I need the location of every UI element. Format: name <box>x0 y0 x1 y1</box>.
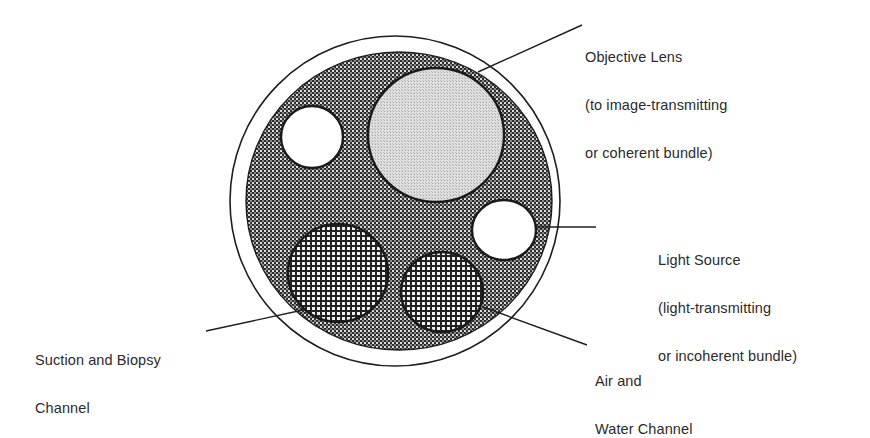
air-water-label: Air and Water Channel <box>595 341 692 438</box>
suction-biopsy-label: Suction and Biopsy Channel <box>35 320 161 432</box>
objective-lens-label-line2: (to image-transmitting <box>585 97 727 113</box>
auxiliary-port-circle <box>281 106 343 168</box>
suction-biopsy-channel-circle <box>288 224 388 322</box>
light-source-label-line1: Light Source <box>658 252 797 268</box>
air-water-label-line1: Air and <box>595 373 692 389</box>
suction-biopsy-label-line2: Channel <box>35 400 161 416</box>
air-water-channel-circle <box>401 252 483 332</box>
objective-lens-leader-line <box>478 25 582 72</box>
light-source-circle <box>472 200 536 260</box>
objective-lens-label-line3: or coherent bundle) <box>585 145 727 161</box>
objective-lens-label-line1: Objective Lens <box>585 49 727 65</box>
objective-lens-circle <box>368 68 504 202</box>
suction-biopsy-label-line1: Suction and Biopsy <box>35 352 161 368</box>
objective-lens-label: Objective Lens (to image-transmitting or… <box>585 17 727 177</box>
air-water-label-line2: Water Channel <box>595 421 692 437</box>
light-source-label-line2: (light-transmitting <box>658 300 797 316</box>
